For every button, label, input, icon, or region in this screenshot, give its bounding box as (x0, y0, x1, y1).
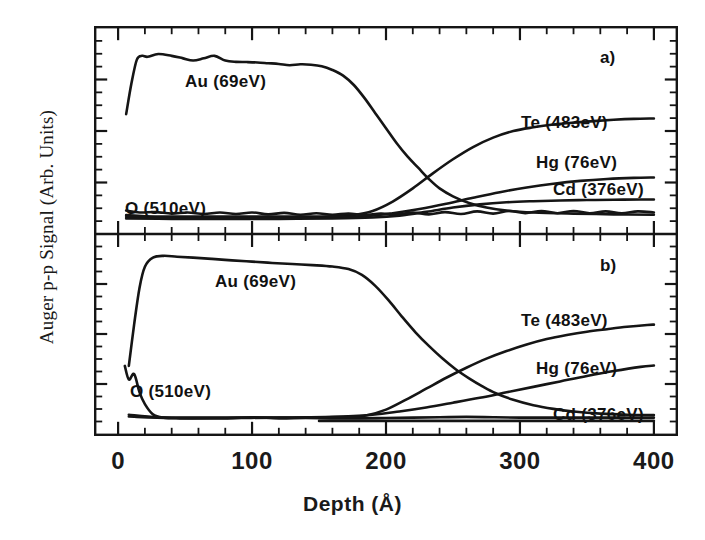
auger-depth-profile-figure: Auger p-p Signal (Arb. Units) 0100200300… (0, 0, 705, 540)
y-axis-label: Auger p-p Signal (Arb. Units) (36, 62, 58, 392)
panel-tag-b: b) (600, 256, 616, 276)
annotation-a-cd: Cd (376eV) (553, 180, 644, 200)
x-tick-label-200: 200 (341, 447, 431, 475)
annotation-b-o: O (510eV) (130, 382, 211, 402)
x-tick-label-300: 300 (475, 447, 565, 475)
x-tick-label-400: 400 (609, 447, 699, 475)
x-tick-label-100: 100 (207, 447, 297, 475)
x-tick-label-0: 0 (73, 447, 163, 475)
annotation-a-o: O (510eV) (125, 199, 206, 219)
annotation-b-au: Au (69eV) (215, 272, 296, 292)
panel-tag-a: a) (600, 48, 615, 68)
annotation-b-hg: Hg (76eV) (536, 359, 617, 379)
annotation-a-au: Au (69eV) (185, 72, 266, 92)
annotation-b-te: Te (483eV) (521, 311, 608, 331)
annotation-b-cd: Cd (376eV) (553, 405, 644, 425)
x-axis-label: Depth (Å) (0, 492, 705, 516)
annotation-a-hg: Hg (76eV) (536, 153, 617, 173)
annotation-a-te: Te (483eV) (521, 113, 608, 133)
